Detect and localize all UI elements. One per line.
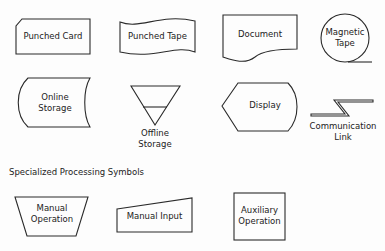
magnetic-tape-label-1: Magnetic [321, 27, 369, 38]
punched-card-label: Punched Card [16, 31, 90, 42]
communication-link-label-2: Link [305, 132, 381, 143]
auxiliary-operation-label-1: Auxiliary [234, 205, 285, 216]
online-storage-label-2: Storage [20, 103, 90, 114]
magnetic-tape-label-2: Tape [321, 38, 369, 49]
punched-tape-label: Punched Tape [120, 31, 195, 42]
section-heading: Specialized Processing Symbols [9, 167, 144, 177]
offline-storage-label-1: Offline [125, 128, 185, 139]
communication-link-label-1: Communication [305, 121, 381, 132]
manual-operation-label-1: Manual [20, 203, 84, 214]
manual-operation-label-2: Operation [20, 214, 84, 225]
flowchart-symbols-diagram: Punched Card Punched Tape Document Magne… [0, 0, 385, 251]
offline-storage-shape [131, 86, 180, 125]
document-label: Document [223, 29, 297, 40]
display-label: Display [240, 100, 290, 111]
communication-link-shape [311, 100, 373, 116]
auxiliary-operation-label-2: Operation [234, 216, 285, 227]
online-storage-label-1: Online [20, 92, 90, 103]
manual-input-label: Manual Input [117, 211, 192, 222]
offline-storage-label-2: Storage [125, 139, 185, 150]
